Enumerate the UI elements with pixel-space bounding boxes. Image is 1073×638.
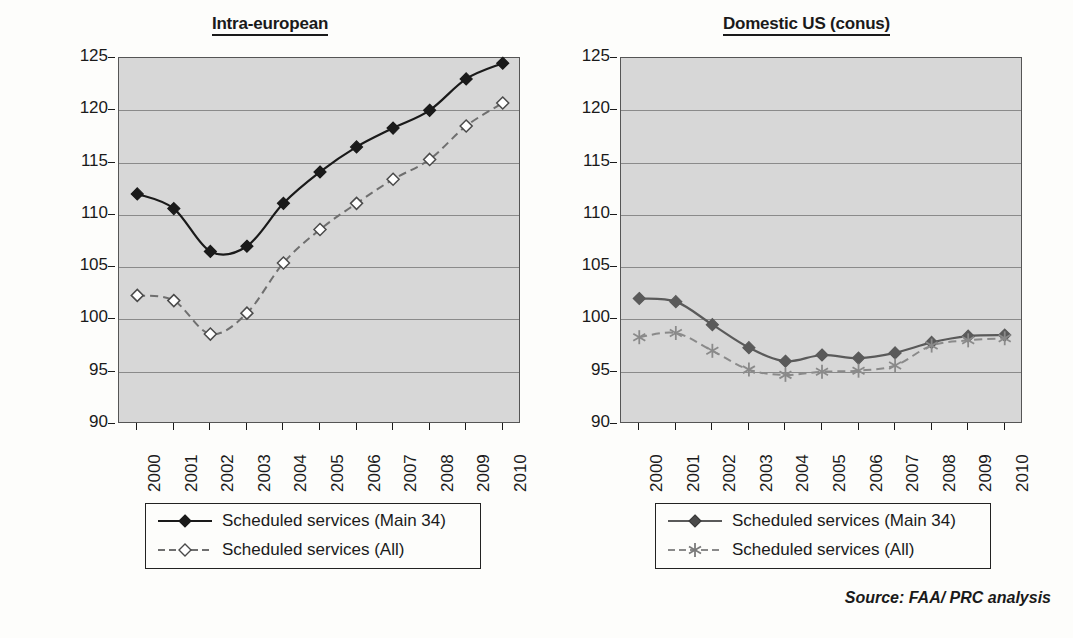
y-tick-label: 120 bbox=[564, 98, 610, 118]
data-point-marker bbox=[853, 352, 865, 364]
x-tick-label: 2003 bbox=[255, 454, 275, 492]
chart-title-right-text: Domestic US (conus) bbox=[723, 14, 890, 36]
chart-title-right: Domestic US (conus) bbox=[540, 14, 1073, 34]
y-tick-label: 125 bbox=[564, 46, 610, 66]
x-tick-label: 2004 bbox=[291, 454, 311, 492]
y-tick-label: 110 bbox=[564, 203, 610, 223]
x-tick-mark bbox=[173, 423, 174, 430]
x-tick-label: 2007 bbox=[903, 454, 923, 492]
data-point-marker bbox=[706, 344, 718, 358]
y-tick-mark bbox=[108, 266, 115, 267]
y-axis-tick-labels-left: 1251201151101051009590 bbox=[62, 57, 108, 423]
asterisk-icon bbox=[666, 540, 724, 560]
x-tick-mark bbox=[356, 423, 357, 430]
x-tick-mark bbox=[675, 423, 676, 430]
x-tick-label: 2001 bbox=[182, 454, 202, 492]
open-diamond-icon bbox=[156, 540, 214, 560]
y-tick-mark bbox=[108, 423, 115, 424]
x-tick-mark bbox=[858, 423, 859, 430]
y-axis-tick-labels-right: 1251201151101051009590 bbox=[564, 57, 610, 423]
x-axis-ticks-right bbox=[620, 423, 1022, 431]
x-axis-tick-labels-right: 2000200120022003200420052006200720082009… bbox=[620, 432, 1022, 502]
chart-title-left: Intra-european bbox=[0, 14, 540, 34]
y-tick-label: 115 bbox=[564, 151, 610, 171]
x-tick-mark bbox=[821, 423, 822, 430]
x-axis-ticks-left bbox=[118, 423, 520, 431]
x-tick-label: 2002 bbox=[720, 454, 740, 492]
y-tick-mark bbox=[610, 109, 617, 110]
y-tick-mark bbox=[610, 57, 617, 58]
x-tick-mark bbox=[136, 423, 137, 430]
y-tick-mark bbox=[108, 318, 115, 319]
y-tick-label: 95 bbox=[62, 360, 108, 380]
y-tick-label: 105 bbox=[564, 255, 610, 275]
series-filled-diamond bbox=[633, 293, 1010, 368]
x-tick-label: 2008 bbox=[438, 454, 458, 492]
legend-label: Scheduled services (Main 34) bbox=[222, 511, 446, 531]
x-tick-label: 2000 bbox=[145, 454, 165, 492]
x-axis-tick-labels-left: 2000200120022003200420052006200720082009… bbox=[118, 432, 520, 502]
data-point-marker bbox=[779, 355, 791, 367]
x-tick-mark bbox=[319, 423, 320, 430]
y-tick-label: 95 bbox=[564, 360, 610, 380]
x-tick-label: 2000 bbox=[647, 454, 667, 492]
legend-right: Scheduled services (Main 34) Scheduled s… bbox=[655, 503, 991, 569]
y-tick-label: 105 bbox=[62, 255, 108, 275]
legend-item: Scheduled services (All) bbox=[666, 536, 914, 564]
x-tick-mark bbox=[429, 423, 430, 430]
y-tick-mark bbox=[610, 266, 617, 267]
x-tick-mark bbox=[209, 423, 210, 430]
data-point-marker bbox=[497, 57, 509, 69]
y-tick-label: 115 bbox=[62, 151, 108, 171]
x-tick-mark bbox=[282, 423, 283, 430]
x-tick-label: 2001 bbox=[684, 454, 704, 492]
x-tick-mark bbox=[246, 423, 247, 430]
data-point-marker bbox=[351, 141, 363, 153]
y-tick-mark bbox=[610, 214, 617, 215]
x-tick-label: 2010 bbox=[1013, 454, 1033, 492]
chart-title-left-text: Intra-european bbox=[212, 14, 328, 36]
legend-item: Scheduled services (All) bbox=[156, 536, 404, 564]
data-point-marker bbox=[204, 328, 216, 340]
x-tick-mark bbox=[502, 423, 503, 430]
filled-diamond-icon bbox=[156, 511, 214, 531]
legend-label: Scheduled services (All) bbox=[732, 540, 914, 560]
y-tick-mark bbox=[108, 109, 115, 110]
data-point-marker bbox=[633, 293, 645, 305]
y-tick-mark bbox=[610, 423, 617, 424]
x-tick-label: 2006 bbox=[867, 454, 887, 492]
data-point-marker bbox=[387, 122, 399, 134]
x-tick-mark bbox=[894, 423, 895, 430]
x-tick-label: 2005 bbox=[328, 454, 348, 492]
data-point-marker bbox=[387, 173, 399, 185]
x-tick-label: 2009 bbox=[976, 454, 996, 492]
series-open-diamond bbox=[131, 97, 508, 340]
legend-label: Scheduled services (All) bbox=[222, 540, 404, 560]
x-tick-label: 2005 bbox=[830, 454, 850, 492]
x-tick-label: 2010 bbox=[511, 454, 531, 492]
y-tick-label: 125 bbox=[62, 46, 108, 66]
y-tick-label: 110 bbox=[62, 203, 108, 223]
y-tick-label: 90 bbox=[62, 412, 108, 432]
filled-diamond-icon bbox=[666, 511, 724, 531]
data-point-marker bbox=[743, 342, 755, 354]
y-tick-mark bbox=[108, 214, 115, 215]
data-point-marker bbox=[889, 347, 901, 359]
data-point-marker bbox=[131, 289, 143, 301]
y-tick-label: 90 bbox=[564, 412, 610, 432]
x-tick-mark bbox=[748, 423, 749, 430]
legend-item: Scheduled services (Main 34) bbox=[156, 507, 446, 535]
legend-left: Scheduled services (Main 34) Scheduled s… bbox=[145, 503, 481, 569]
x-tick-label: 2004 bbox=[793, 454, 813, 492]
x-tick-mark bbox=[392, 423, 393, 430]
x-tick-mark bbox=[931, 423, 932, 430]
y-tick-label: 100 bbox=[62, 307, 108, 327]
plot-area-left bbox=[118, 57, 520, 423]
series-line bbox=[137, 103, 502, 334]
series-layer-left bbox=[119, 58, 521, 424]
y-tick-mark bbox=[610, 162, 617, 163]
y-tick-label: 100 bbox=[564, 307, 610, 327]
data-point-marker bbox=[706, 319, 718, 331]
y-tick-mark bbox=[108, 371, 115, 372]
x-tick-mark bbox=[711, 423, 712, 430]
